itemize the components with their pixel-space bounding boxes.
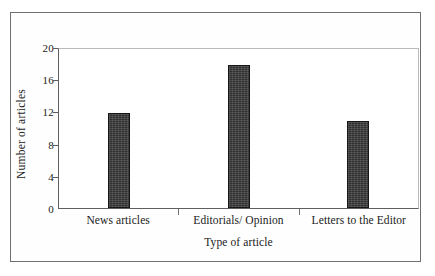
bar-letters-to-the-editor [347, 121, 369, 208]
bar-news-articles [108, 113, 130, 208]
x-axis-title: Type of article [58, 236, 419, 248]
y-tick-label-0: 0 [32, 204, 54, 215]
bar-editorials-opinion [228, 65, 250, 208]
x-tick-label-editorials-opinion: Editorials/ Opinion [178, 214, 298, 226]
x-axis-tick-labels: News articles Editorials/ Opinion Letter… [58, 214, 419, 226]
bar-slot-editorials-opinion [179, 49, 299, 208]
plot-area [58, 48, 419, 209]
y-tick-label-16: 16 [32, 75, 54, 86]
bar-slot-letters-to-the-editor [298, 49, 418, 208]
x-tick-label-news-articles: News articles [58, 214, 178, 226]
x-tick-label-letters-to-the-editor: Letters to the Editor [299, 214, 419, 226]
y-tick-label-8: 8 [32, 140, 54, 151]
bar-slot-news-articles [59, 49, 179, 208]
y-tick-label-20: 20 [32, 43, 54, 54]
y-axis-tick-labels: 0 4 8 12 16 20 [26, 0, 54, 276]
y-tick-label-4: 4 [32, 172, 54, 183]
bar-series [59, 49, 418, 208]
y-tick-label-12: 12 [32, 107, 54, 118]
bar-chart: Number of articles 0 4 8 12 16 20 News a [0, 0, 435, 276]
